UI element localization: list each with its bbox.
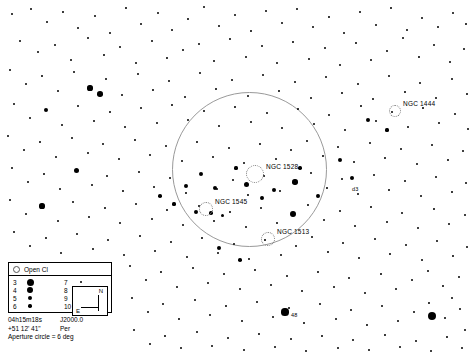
star bbox=[106, 175, 108, 177]
star bbox=[55, 156, 57, 158]
star bbox=[373, 174, 375, 176]
star bbox=[260, 196, 264, 200]
star bbox=[133, 329, 135, 331]
star bbox=[467, 128, 469, 130]
star bbox=[310, 97, 312, 99]
star bbox=[404, 91, 406, 93]
star bbox=[281, 22, 283, 24]
star bbox=[420, 195, 422, 197]
star bbox=[270, 284, 272, 286]
star bbox=[374, 238, 376, 240]
star bbox=[444, 317, 446, 319]
star bbox=[422, 107, 424, 109]
star bbox=[87, 152, 90, 155]
star bbox=[322, 155, 324, 157]
star bbox=[30, 8, 32, 10]
star bbox=[109, 32, 111, 34]
coordinates-dec-line: +51 12' 41" Per bbox=[8, 324, 128, 333]
compass-east-line bbox=[81, 307, 98, 308]
star bbox=[466, 246, 469, 249]
star bbox=[186, 256, 188, 258]
star bbox=[464, 329, 466, 331]
star bbox=[388, 75, 390, 77]
star bbox=[427, 270, 429, 272]
star bbox=[91, 184, 93, 186]
star bbox=[151, 40, 153, 42]
star bbox=[357, 83, 360, 86]
star bbox=[162, 303, 164, 305]
star bbox=[390, 7, 392, 9]
star bbox=[451, 78, 453, 80]
star bbox=[217, 246, 222, 251]
star bbox=[209, 314, 211, 316]
legend-magnitude-label: 9 bbox=[64, 295, 71, 302]
star bbox=[461, 347, 463, 349]
star bbox=[119, 222, 122, 225]
star bbox=[411, 279, 413, 281]
star bbox=[92, 248, 95, 251]
legend-dot-wrapper bbox=[25, 304, 35, 307]
star bbox=[39, 141, 41, 143]
star bbox=[9, 69, 11, 71]
star bbox=[458, 276, 461, 279]
star bbox=[397, 320, 399, 322]
star bbox=[348, 277, 350, 279]
star bbox=[229, 211, 231, 213]
star bbox=[465, 23, 467, 25]
star bbox=[343, 32, 345, 34]
star bbox=[354, 225, 356, 227]
star bbox=[316, 194, 320, 198]
legend-magnitude-label: 10 bbox=[64, 303, 71, 310]
star bbox=[105, 78, 108, 81]
star bbox=[176, 286, 178, 288]
star bbox=[303, 322, 305, 324]
star bbox=[182, 49, 185, 52]
star bbox=[350, 309, 352, 311]
star bbox=[266, 112, 268, 114]
star bbox=[344, 129, 346, 131]
star bbox=[421, 259, 423, 261]
star bbox=[415, 340, 417, 342]
star bbox=[137, 73, 139, 75]
star bbox=[140, 107, 142, 109]
star bbox=[370, 206, 372, 208]
star bbox=[359, 11, 361, 13]
star bbox=[149, 154, 151, 156]
star bbox=[57, 220, 59, 222]
star bbox=[428, 302, 430, 304]
star bbox=[135, 203, 137, 205]
star bbox=[324, 47, 326, 49]
star bbox=[192, 267, 194, 269]
star bbox=[61, 124, 63, 126]
coordinates-ra-line: 04h15m18s J2000.0 bbox=[8, 315, 128, 324]
legend-row: 7 bbox=[60, 278, 111, 286]
star bbox=[168, 80, 170, 82]
star bbox=[211, 345, 214, 348]
star bbox=[436, 240, 438, 242]
open-cluster-marker bbox=[261, 232, 275, 246]
legend-magnitude-label: 7 bbox=[64, 279, 71, 286]
star bbox=[238, 258, 242, 262]
star bbox=[465, 182, 467, 184]
star bbox=[452, 255, 454, 257]
star bbox=[437, 26, 440, 29]
compass-east-label: E bbox=[76, 308, 80, 314]
star bbox=[290, 211, 296, 217]
star bbox=[389, 253, 391, 255]
star bbox=[297, 108, 299, 110]
star bbox=[217, 252, 220, 255]
star bbox=[71, 137, 73, 139]
open-cluster-marker bbox=[199, 202, 213, 216]
star bbox=[459, 308, 461, 310]
star bbox=[447, 159, 449, 161]
star bbox=[203, 110, 205, 112]
star-label: 48 bbox=[291, 312, 298, 318]
star bbox=[77, 27, 80, 30]
star bbox=[109, 111, 111, 113]
star bbox=[452, 12, 454, 14]
star bbox=[355, 42, 357, 44]
star bbox=[328, 114, 330, 116]
star bbox=[326, 187, 328, 189]
star bbox=[380, 273, 382, 275]
star bbox=[281, 308, 288, 315]
